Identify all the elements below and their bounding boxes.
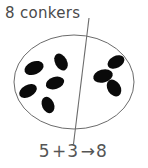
equation-addend-2: 3 [67,141,80,161]
equation-sum: 8 [96,141,109,161]
worksheet-canvas: 8 conkers 5+3→8 [0,0,148,168]
equation-operator: + [52,141,67,161]
equation-arrow-icon: → [81,141,96,161]
equation: 5+3→8 [0,140,148,162]
equation-addend-1: 5 [39,141,52,161]
